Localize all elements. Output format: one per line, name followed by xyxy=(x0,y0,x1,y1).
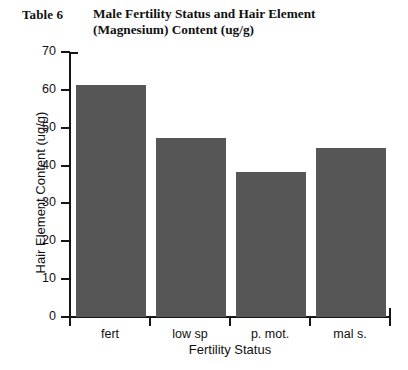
y-tick-label-30: 30 xyxy=(16,196,56,208)
y-tick-label-70: 70 xyxy=(16,45,56,57)
y-tick-50 xyxy=(61,127,70,129)
bar-chart: Hair Element Content (ug/g) 010203040506… xyxy=(0,0,408,370)
y-tick-20 xyxy=(61,240,70,242)
x-tick-label-1: low sp xyxy=(145,327,235,341)
x-tick-label-3: mal s. xyxy=(305,327,395,341)
x-tick-label-0: fert xyxy=(65,327,155,341)
y-tick-label-20: 20 xyxy=(16,234,56,246)
y-tick-label-40: 40 xyxy=(16,159,56,171)
bar-fert xyxy=(76,85,146,317)
y-tick-10 xyxy=(61,278,70,280)
y-tick-label-10: 10 xyxy=(16,272,56,284)
x-tick-4 xyxy=(389,318,391,326)
x-tick-0 xyxy=(69,318,71,326)
bar-low-sp xyxy=(156,138,226,317)
y-tick-60 xyxy=(61,89,70,91)
y-tick-30 xyxy=(61,202,70,204)
plot-area xyxy=(70,52,390,317)
bar-p-mot xyxy=(236,172,306,317)
x-tick-label-2: p. mot. xyxy=(225,327,315,341)
y-tick-label-50: 50 xyxy=(16,121,56,133)
y-tick-40 xyxy=(61,165,70,167)
x-tick-3 xyxy=(309,318,311,326)
y-tick-label-0: 0 xyxy=(16,310,56,322)
y-tick-70 xyxy=(61,51,70,53)
x-axis-title: Fertility Status xyxy=(70,342,390,357)
x-tick-1 xyxy=(149,318,151,326)
y-tick-label-60: 60 xyxy=(16,83,56,95)
x-tick-2 xyxy=(229,318,231,326)
bar-mal-s xyxy=(316,148,386,317)
